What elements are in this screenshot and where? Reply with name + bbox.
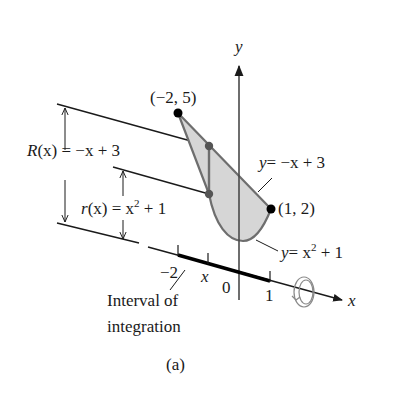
outer-radius-eq: = −x + 3 bbox=[57, 141, 120, 160]
inner-radius-label: r(x) = x2 + 1 bbox=[81, 197, 166, 218]
y-axis-label: y bbox=[233, 37, 243, 56]
tick-label-0: 0 bbox=[222, 278, 231, 297]
upper-curve-y: y bbox=[257, 153, 267, 172]
point-inner-radius bbox=[205, 190, 213, 198]
outer-radius-name: R bbox=[26, 141, 38, 160]
point-1-2 bbox=[267, 205, 276, 214]
lower-curve-eq-b: + 1 bbox=[316, 243, 343, 262]
leader-lower-curve bbox=[256, 240, 278, 251]
inner-radius-top-line bbox=[113, 167, 209, 194]
outer-radius-label: R(x) = −x + 3 bbox=[26, 141, 120, 160]
lower-curve-y: y bbox=[279, 243, 289, 262]
washer-method-diagram: y x (−2, 5) (1, 2) y= −x + 3 y= x2 + 1 R… bbox=[0, 0, 393, 398]
base-line-left bbox=[57, 223, 139, 243]
point-1-2-label: (1, 2) bbox=[278, 199, 315, 218]
point-minus2-5-label: (−2, 5) bbox=[150, 88, 196, 107]
interval-label-line1: Interval of bbox=[107, 291, 179, 310]
figure-caption: (a) bbox=[166, 355, 185, 374]
upper-curve-label: y= −x + 3 bbox=[257, 153, 325, 172]
point-minus2-5 bbox=[174, 109, 183, 118]
inner-radius-eq-b: + 1 bbox=[140, 199, 167, 218]
leader-upper-curve bbox=[258, 178, 272, 192]
point-outer-radius bbox=[205, 142, 213, 150]
inner-radius-eq-a: = x bbox=[107, 199, 134, 218]
lower-curve-eq-a: = x bbox=[289, 243, 312, 262]
shaded-region bbox=[178, 113, 271, 241]
tick-label-1: 1 bbox=[265, 286, 274, 305]
interval-label-line2: integration bbox=[107, 317, 181, 336]
outer-radius-arg: (x) bbox=[37, 141, 57, 160]
tick-label-x: x bbox=[200, 267, 209, 286]
upper-curve-eq: = −x + 3 bbox=[267, 153, 326, 172]
inner-radius-arg: (x) bbox=[88, 199, 108, 218]
tick-label-minus-2: −2 bbox=[160, 263, 178, 282]
x-axis-label: x bbox=[347, 291, 356, 310]
lower-curve-label: y= x2 + 1 bbox=[279, 241, 343, 262]
